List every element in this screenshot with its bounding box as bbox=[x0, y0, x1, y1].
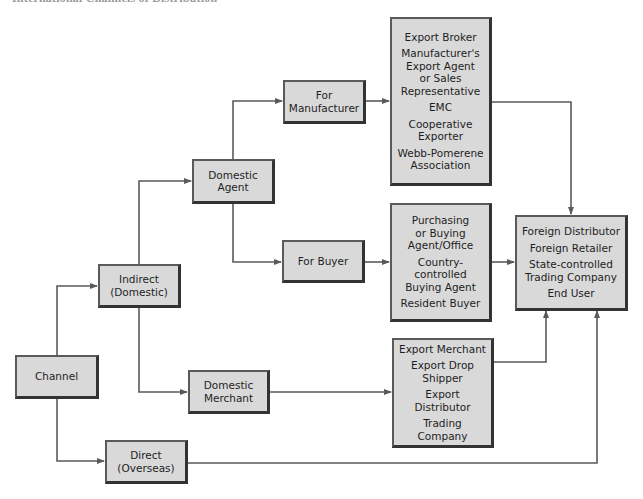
node-label: Channel bbox=[35, 370, 78, 383]
node-label: (Overseas) bbox=[117, 462, 174, 475]
item-text: Foreign Distributor bbox=[522, 225, 620, 238]
edge-agent-manufacturer bbox=[233, 101, 282, 159]
node-manufacturer-intermediaries: Export Broker Manufacturer's Export Agen… bbox=[390, 17, 492, 186]
node-label: For Buyer bbox=[298, 255, 349, 268]
list-item: End User bbox=[547, 287, 594, 300]
item-text: Shipper bbox=[411, 372, 474, 385]
list-item: EMC bbox=[429, 101, 452, 114]
item-text: Resident Buyer bbox=[401, 297, 481, 310]
item-text: Distributor bbox=[414, 401, 470, 414]
node-label: Domestic bbox=[204, 379, 253, 392]
list-item: Webb-Pomerene Association bbox=[397, 147, 483, 172]
item-text: Trading Company bbox=[397, 417, 488, 442]
item-text: End User bbox=[547, 287, 594, 300]
edge-channel-indirect bbox=[57, 286, 97, 355]
list-item: Export Merchant bbox=[399, 343, 486, 356]
list-item: Manufacturer's Export Agent or Sales Rep… bbox=[401, 47, 480, 97]
node-label: Manufacturer bbox=[289, 102, 359, 115]
list-item: Foreign Distributor bbox=[522, 225, 620, 238]
node-label: Indirect bbox=[119, 273, 159, 286]
node-label: Agent bbox=[217, 181, 248, 194]
edge-indirect-merchant bbox=[139, 307, 187, 392]
item-text: Export Broker bbox=[405, 31, 477, 44]
node-buyer-intermediaries: Purchasing or Buying Agent/Office Countr… bbox=[390, 203, 492, 322]
node-label: Direct bbox=[130, 449, 161, 462]
node-domestic-agent: Domestic Agent bbox=[192, 159, 275, 204]
item-text: Export Merchant bbox=[399, 343, 486, 356]
edge-mlist-foreign bbox=[492, 102, 571, 214]
list-item: Purchasing or Buying Agent/Office bbox=[408, 214, 473, 252]
item-text: or Buying bbox=[408, 227, 473, 240]
list-item: Cooperative Exporter bbox=[409, 118, 473, 143]
item-text: Trading Company bbox=[525, 271, 617, 284]
item-text: Foreign Retailer bbox=[530, 242, 613, 255]
item-text: Representative bbox=[401, 85, 480, 98]
item-text: Webb-Pomerene bbox=[397, 147, 483, 160]
list-item: Trading Company bbox=[397, 417, 488, 442]
node-label: Domestic bbox=[208, 169, 257, 182]
node-for-manufacturer: For Manufacturer bbox=[283, 80, 366, 124]
node-channel: Channel bbox=[15, 355, 99, 399]
item-text: Export Agent bbox=[401, 60, 480, 73]
item-text: Association bbox=[397, 159, 483, 172]
list-item: Foreign Retailer bbox=[530, 242, 613, 255]
item-text: State-controlled bbox=[525, 258, 617, 271]
node-for-buyer: For Buyer bbox=[282, 240, 365, 283]
item-text: Manufacturer's bbox=[401, 47, 480, 60]
item-text: Purchasing bbox=[408, 214, 473, 227]
list-item: State-controlled Trading Company bbox=[525, 258, 617, 283]
list-item: Resident Buyer bbox=[401, 297, 481, 310]
item-text: Agent/Office bbox=[408, 239, 473, 252]
list-item: Export Distributor bbox=[414, 388, 470, 413]
node-foreign-destinations: Foreign Distributor Foreign Retailer Sta… bbox=[515, 215, 628, 311]
item-text: Export Drop bbox=[411, 359, 474, 372]
node-indirect-domestic: Indirect (Domestic) bbox=[98, 264, 181, 308]
node-merchant-intermediaries: Export Merchant Export Drop Shipper Expo… bbox=[392, 338, 494, 448]
edge-channel-direct bbox=[57, 398, 104, 461]
list-item: Export Broker bbox=[405, 31, 477, 44]
list-item: Country- controlled Buying Agent bbox=[405, 256, 476, 294]
node-label: (Domestic) bbox=[110, 286, 168, 299]
node-direct-overseas: Direct (Overseas) bbox=[105, 440, 188, 484]
node-label: Merchant bbox=[204, 392, 253, 405]
node-domestic-merchant: Domestic Merchant bbox=[188, 370, 270, 414]
item-text: Cooperative bbox=[409, 118, 473, 131]
node-label: For bbox=[316, 89, 332, 102]
item-text: Buying Agent bbox=[405, 281, 476, 294]
edge-agent-buyer bbox=[233, 203, 281, 262]
edge-merlist-foreign bbox=[494, 311, 546, 362]
item-text: Exporter bbox=[409, 130, 473, 143]
item-text: EMC bbox=[429, 101, 452, 114]
item-text: Export bbox=[414, 388, 470, 401]
list-item: Export Drop Shipper bbox=[411, 359, 474, 384]
item-text: controlled bbox=[405, 268, 476, 281]
item-text: or Sales bbox=[401, 72, 480, 85]
item-text: Country- bbox=[405, 256, 476, 269]
edge-indirect-agent bbox=[139, 181, 191, 264]
